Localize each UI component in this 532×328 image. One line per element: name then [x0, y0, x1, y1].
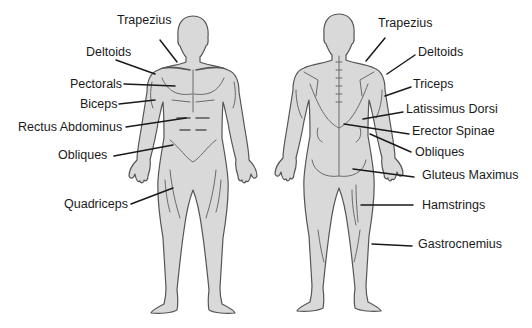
label-obliques-front: Obliques	[58, 148, 107, 162]
leader-line-deltoids-front	[116, 60, 155, 74]
label-trapezius-back: Trapezius	[378, 16, 432, 30]
muscle-anatomy-diagram: Trapezius Deltoids Pectorals Biceps Rect…	[0, 0, 532, 328]
label-gluteus-maximus: Gluteus Maximus	[422, 168, 519, 182]
leader-line-gastrocnemius	[372, 244, 412, 246]
front-body-figure	[129, 16, 257, 313]
label-gastrocnemius: Gastrocnemius	[418, 237, 502, 251]
label-biceps: Biceps	[80, 97, 118, 111]
label-deltoids-back: Deltoids	[418, 45, 463, 59]
label-latissimus-dorsi: Latissimus Dorsi	[406, 102, 498, 116]
label-pectorals: Pectorals	[70, 77, 122, 91]
label-quadriceps: Quadriceps	[64, 197, 128, 211]
back-body-figure	[275, 14, 403, 311]
label-triceps: Triceps	[413, 77, 454, 91]
label-deltoids-front: Deltoids	[86, 45, 131, 59]
label-hamstrings: Hamstrings	[422, 198, 485, 212]
leader-line-trapezius-front	[160, 40, 177, 62]
label-erector-spinae: Erector Spinae	[412, 124, 495, 138]
label-rectus-abdominus: Rectus Abdominus	[18, 120, 122, 134]
leader-line-trapezius-back	[366, 38, 385, 61]
label-obliques-back: Obliques	[415, 145, 464, 159]
leader-line-deltoids-back	[387, 55, 415, 74]
leader-line-triceps	[385, 87, 411, 96]
label-trapezius-front: Trapezius	[117, 13, 171, 27]
